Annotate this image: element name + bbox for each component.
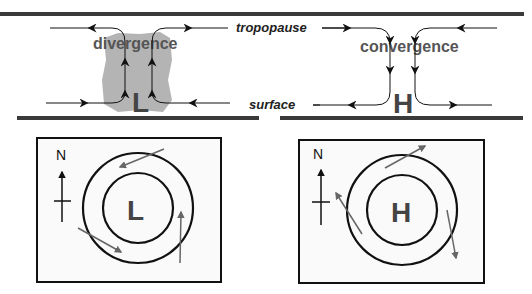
- north-label: N: [313, 146, 323, 162]
- tropopause-bar: [0, 12, 524, 16]
- low-pressure-label: L: [132, 87, 149, 118]
- tropopause-label: tropopause: [236, 20, 307, 35]
- low-center-label: L: [127, 195, 144, 226]
- high-vertical-panel: convergence H: [313, 28, 497, 119]
- outflow-surface-left: [313, 92, 390, 105]
- north-label: N: [56, 147, 66, 163]
- high-center-label: H: [391, 197, 411, 228]
- cyclone-anticyclone-diagram: divergence L tropopause surface converge…: [0, 0, 532, 294]
- convergence-label: convergence: [360, 38, 459, 55]
- surface-label: surface: [249, 97, 295, 112]
- high-pressure-label: H: [393, 88, 413, 119]
- low-plan-panel: N L: [37, 138, 221, 282]
- divergence-label: divergence: [93, 35, 178, 52]
- wind-arrow-icon: [180, 212, 181, 263]
- high-plan-panel: N H: [299, 140, 484, 283]
- outflow-surface-right: [415, 92, 492, 105]
- low-vertical-panel: divergence L: [46, 28, 230, 118]
